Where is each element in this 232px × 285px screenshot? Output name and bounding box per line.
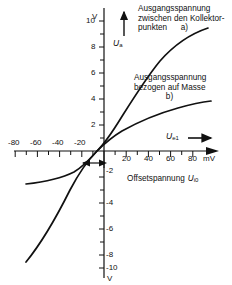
y-axis-name: Ua	[113, 38, 122, 48]
x-axis-name: Ue1	[166, 131, 179, 141]
y-ticks-negative	[99, 164, 104, 268]
offset-text: Offsetspannung	[127, 174, 185, 183]
x-tick-20: 20	[122, 154, 131, 163]
y-unit-bottom: V	[107, 274, 112, 283]
y-tick-neg6: -6	[106, 224, 113, 233]
x-unit-label: mV	[203, 154, 215, 163]
x-tick-neg80: -80	[8, 138, 20, 147]
y-tick-10: 10	[86, 16, 95, 25]
x-tick-40: 40	[144, 154, 153, 163]
y-tick-neg8: -8	[106, 250, 113, 259]
x-tick-neg20: -20	[74, 138, 86, 147]
y-tick-4: 4	[91, 94, 95, 103]
annotation-curve-b: Ausgangsspannung bezogen auf Masse b)	[134, 73, 206, 102]
y-tick-2: 2	[91, 120, 95, 129]
x-tick-neg60: -60	[30, 138, 42, 147]
y-axis-subscript: a	[119, 42, 122, 48]
x-tick-80: 80	[188, 154, 197, 163]
y-tick-6: 6	[91, 68, 95, 77]
figure-canvas: V 10 8 6 4 2 -2 -4 -6 -8 -10 V Ua -80 -6…	[0, 0, 232, 285]
x-tick-neg40: -40	[52, 138, 64, 147]
y-tick-neg4: -4	[106, 198, 113, 207]
annotation-offset: OffsetspannungUi0	[118, 164, 198, 195]
y-tick-8: 8	[91, 42, 95, 51]
offset-subscript: i0	[194, 177, 199, 183]
y-tick-neg2: -2	[106, 166, 113, 175]
x-axis-subscript: e1	[172, 135, 179, 141]
y-tick-neg10: -10	[106, 263, 118, 272]
x-tick-60: 60	[166, 154, 175, 163]
y-ticks-positive	[99, 21, 104, 138]
annotation-curve-a: Ausgangsspannung zwischen den Kollektor-…	[138, 4, 224, 33]
